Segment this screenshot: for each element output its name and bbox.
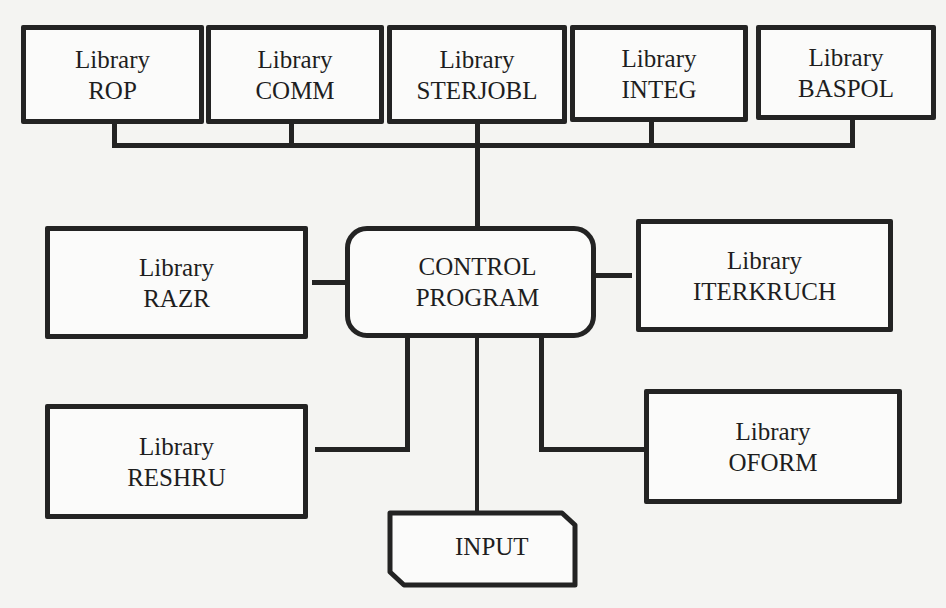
input-shape [0,0,946,608]
input-label: INPUT [455,533,529,561]
